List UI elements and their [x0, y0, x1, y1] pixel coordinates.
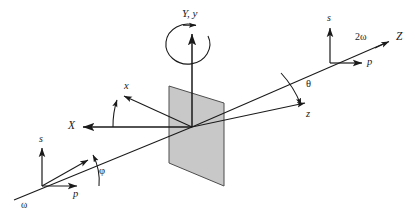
polar-angle-label: θ — [306, 79, 311, 90]
outgoing-p-polarization-label: p — [367, 57, 372, 68]
lab-z-axis-label: Z — [396, 31, 402, 43]
lab-y-axis-label: Y, y — [182, 8, 198, 19]
outgoing-beam-line — [192, 44, 383, 127]
lab-z-axis-arrow — [375, 42, 389, 49]
sample-plane — [169, 86, 224, 186]
arc-lab-x-to-crystal-x — [113, 100, 117, 127]
crystal-z-axis-label: z — [306, 109, 310, 120]
rotation-arc-about-y — [166, 24, 210, 64]
incident-s-polarization-label: s — [39, 134, 43, 144]
outgoing-s-polarization-label: s — [327, 13, 331, 23]
fundamental-frequency-label: ω — [21, 201, 27, 211]
theta-arc — [281, 73, 301, 105]
diagram-canvas — [0, 0, 415, 221]
scattering-geometry-figure: Y, y X Z x z 2ω ω s p s p φ θ — [0, 0, 415, 221]
second-harmonic-label: 2ω — [355, 32, 367, 42]
lab-x-axis-label: X — [68, 120, 75, 132]
crystal-x-axis-label: x — [124, 81, 129, 92]
incident-p-polarization-label: p — [73, 189, 78, 200]
azimuthal-angle-label: φ — [99, 166, 105, 177]
